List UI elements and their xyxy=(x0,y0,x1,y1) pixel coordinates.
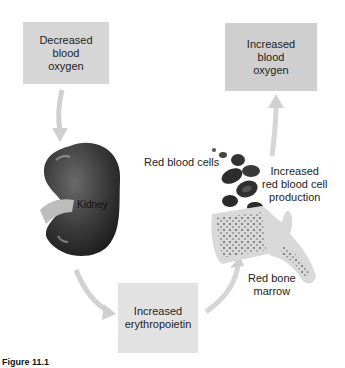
rbc-production-label: Increased red blood cell production xyxy=(262,165,327,204)
decreased-blood-oxygen-box: Decreased blood oxygen xyxy=(23,22,109,84)
arrow-to-increased-oxygen xyxy=(268,94,284,156)
increased-erythropoietin-box: Increased erythropoietin xyxy=(118,283,198,353)
increased-blood-oxygen-box: Increased blood oxygen xyxy=(225,23,317,91)
figure-caption: Figure 11.1 xyxy=(2,357,49,367)
arrow-to-bone-marrow xyxy=(206,256,244,312)
red-blood-cells-illustration xyxy=(212,148,263,212)
decreased-blood-oxygen-label: Decreased blood oxygen xyxy=(39,34,92,73)
increased-blood-oxygen-label: Increased blood oxygen xyxy=(247,38,295,77)
kidney-label: Kidney xyxy=(77,198,108,211)
increased-erythropoietin-label: Increased erythropoietin xyxy=(125,305,192,331)
figure-number: Figure 11.1 xyxy=(2,357,49,367)
red-bone-marrow-label: Red bone marrow xyxy=(248,272,296,298)
arrow-to-erythropoietin xyxy=(76,270,116,320)
arrow-to-kidney xyxy=(52,90,68,142)
red-blood-cells-label: Red blood cells xyxy=(144,156,219,169)
